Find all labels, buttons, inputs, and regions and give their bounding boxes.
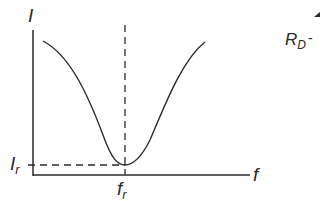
resonance-diagram: I f Ir fr RD- [0,0,320,201]
cutoff-label: RD- [285,30,313,52]
min-current-label: Ir [10,153,20,177]
x-axis-label: f [253,164,260,185]
resonant-frequency-label: fr [117,178,127,201]
partial-arrow-icon [314,12,320,17]
y-axis-label: I [28,5,34,26]
resonance-curve [43,41,205,165]
